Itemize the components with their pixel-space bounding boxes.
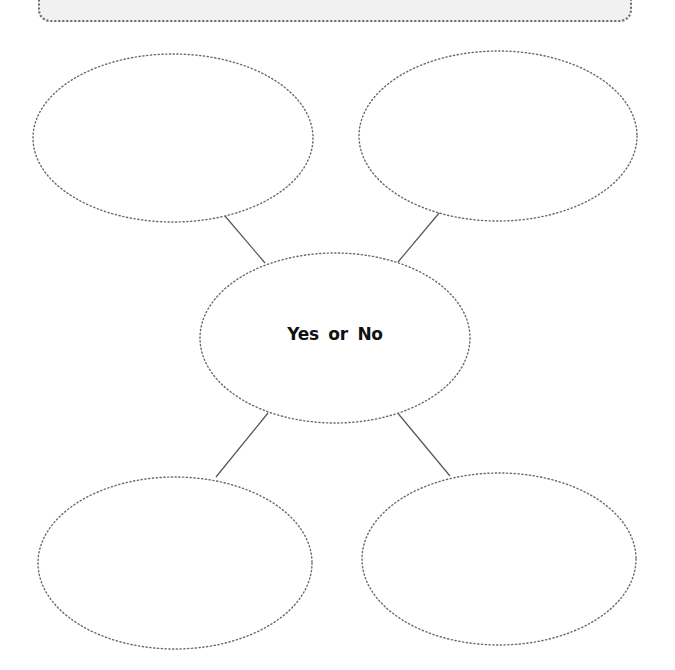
connector-bottom-left	[216, 413, 268, 477]
node-top-right	[359, 51, 637, 221]
diagram-canvas: Yes or No	[0, 0, 675, 670]
connector-bottom-right	[396, 411, 450, 476]
connector-top-left	[225, 216, 265, 263]
center-label: Yes or No	[200, 322, 470, 346]
node-bottom-right	[362, 473, 636, 645]
node-top-left	[33, 54, 313, 222]
connector-top-right	[398, 212, 440, 262]
node-bottom-left	[38, 477, 312, 649]
